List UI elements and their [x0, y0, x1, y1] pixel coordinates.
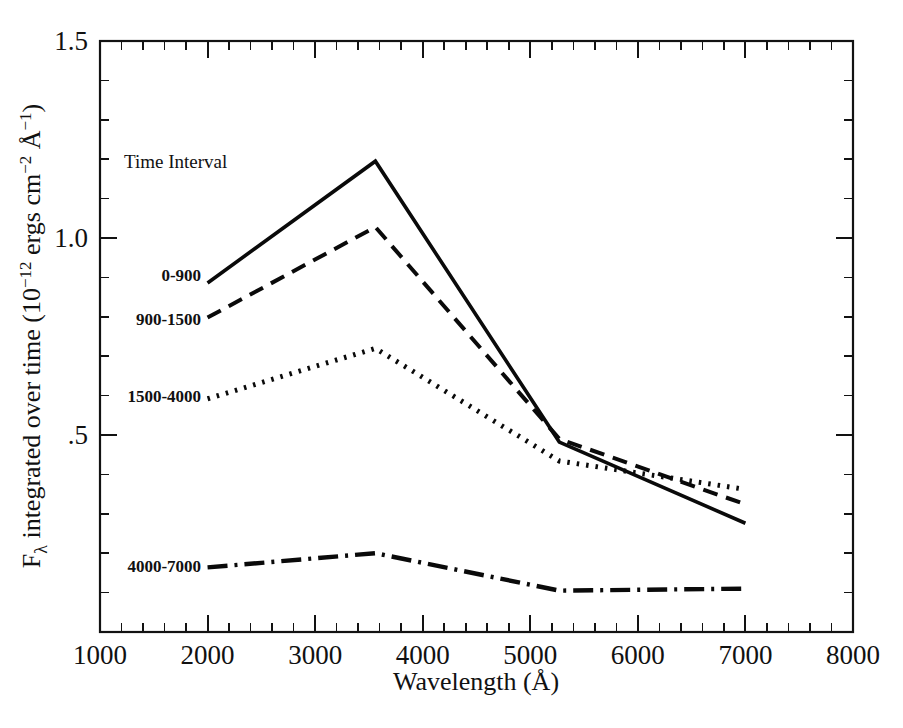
legend-label-4000-7000: 4000-7000 — [127, 557, 201, 576]
plot-frame — [100, 41, 853, 632]
flux-vs-wavelength-chart: 10002000300040005000600070008000 .51.01.… — [0, 0, 903, 728]
axis-ticks — [100, 41, 853, 632]
legend-label-1500-4000: 1500-4000 — [127, 387, 201, 406]
x-tick-labels: 10002000300040005000600070008000 — [73, 640, 880, 670]
series-line-1500-4000 — [208, 348, 746, 489]
x-tick-label-1000: 1000 — [73, 640, 127, 670]
legend-label-900-1500: 900-1500 — [136, 310, 201, 329]
x-tick-label-8000: 8000 — [826, 640, 880, 670]
ylabel-suffix: ) — [17, 104, 46, 113]
legend-title: Time Interval — [124, 151, 227, 172]
figure-container: 10002000300040005000600070008000 .51.01.… — [0, 0, 903, 728]
y-tick-label-1.0: 1.0 — [54, 223, 88, 253]
x-tick-label-7000: 7000 — [718, 640, 772, 670]
legend-label-0-900: 0-900 — [161, 266, 201, 285]
ylabel-exponent-2: −2 — [16, 156, 35, 174]
x-tick-label-6000: 6000 — [611, 640, 665, 670]
y-axis-title: Fλ integrated over time (10−12 ergs cm−2… — [16, 104, 51, 569]
svg-text:Fλ integrated over time (10−12: Fλ integrated over time (10−12 ergs cm−2… — [16, 104, 51, 569]
x-tick-label-3000: 3000 — [288, 640, 342, 670]
figure-caption — [0, 694, 903, 728]
ylabel-mid2: ergs cm — [17, 174, 46, 262]
legend-group: Time Interval 0-900900-15001500-40004000… — [124, 151, 227, 576]
y-tick-label-1.5: 1.5 — [54, 26, 88, 56]
ylabel-mid: integrated over time (10 — [17, 288, 46, 545]
ylabel-lambda-subscript: λ — [31, 545, 51, 554]
ylabel-prefix: F — [17, 554, 46, 568]
x-tick-label-4000: 4000 — [396, 640, 450, 670]
x-tick-label-2000: 2000 — [181, 640, 235, 670]
series-line-4000-7000 — [208, 553, 746, 590]
x-axis-title: Wavelength (Å) — [393, 667, 559, 696]
x-tick-label-5000: 5000 — [503, 640, 557, 670]
data-series-group — [208, 161, 746, 590]
y-tick-labels: .51.01.5 — [54, 26, 88, 450]
ylabel-exponent-1: −1 — [16, 112, 35, 130]
series-line-900-1500 — [208, 227, 746, 504]
axis-box — [100, 41, 853, 632]
ylabel-mid3: Å — [17, 130, 46, 156]
ylabel-exponent-12: −12 — [16, 261, 35, 288]
y-tick-label-.5: .5 — [68, 420, 88, 450]
